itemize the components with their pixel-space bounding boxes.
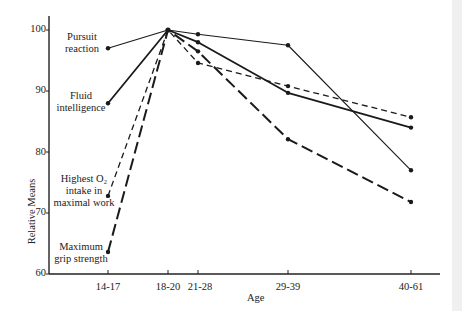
data-point bbox=[196, 32, 200, 36]
data-point bbox=[286, 43, 290, 47]
data-point bbox=[286, 84, 290, 88]
data-point bbox=[196, 40, 200, 44]
data-point bbox=[196, 61, 200, 65]
label-fluid-intelligence: Fluidintelligence bbox=[53, 90, 109, 114]
x-tick-29-39: 29-39 bbox=[268, 281, 308, 292]
y-tick-100: 100 bbox=[16, 23, 46, 34]
series-line-0 bbox=[108, 30, 411, 170]
label-max-grip: Maximumgrip strength bbox=[50, 241, 112, 265]
data-point bbox=[409, 115, 413, 119]
x-tick-14-17: 14-17 bbox=[88, 281, 128, 292]
series-line-3 bbox=[108, 30, 411, 252]
label-highest-o2: Highest O₂intake inmaximal work bbox=[52, 173, 116, 209]
y-tick-80: 80 bbox=[16, 146, 46, 157]
peak-point bbox=[165, 27, 170, 32]
data-point bbox=[286, 91, 290, 95]
data-point bbox=[409, 125, 413, 129]
series-line-2 bbox=[108, 30, 411, 196]
page-edge bbox=[452, 0, 462, 311]
data-point bbox=[196, 49, 200, 53]
x-tick-40-61: 40-61 bbox=[391, 281, 431, 292]
y-tick-60: 60 bbox=[16, 267, 46, 278]
y-tick-90: 90 bbox=[16, 84, 46, 95]
data-point bbox=[409, 168, 413, 172]
y-axis-label: Relative Means bbox=[26, 167, 37, 257]
label-pursuit-reaction: Pursuitreaction bbox=[57, 31, 107, 55]
data-point bbox=[286, 137, 290, 141]
x-tick-21-28: 21-28 bbox=[180, 281, 220, 292]
data-point bbox=[409, 200, 413, 204]
x-axis-label: Age bbox=[247, 292, 265, 303]
